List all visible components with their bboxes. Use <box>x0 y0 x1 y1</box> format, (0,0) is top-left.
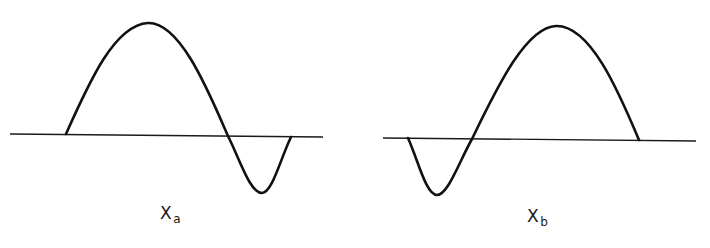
panel-b-label-subscript: b <box>540 215 548 229</box>
panel-a-axis-line <box>10 134 323 137</box>
panel-a-waveform <box>66 23 291 193</box>
panel-a <box>10 23 323 193</box>
panel-a-label-subscript: a <box>173 212 181 226</box>
panel-b <box>383 26 696 195</box>
panel-b-label-main: X <box>527 206 539 226</box>
panel-a-label: Xa <box>160 203 181 223</box>
waveform-diagram <box>0 0 710 248</box>
panel-b-axis-line <box>383 138 696 141</box>
panel-a-label-main: X <box>160 203 172 223</box>
panel-b-waveform <box>408 26 639 195</box>
panel-b-label: Xb <box>527 206 548 226</box>
